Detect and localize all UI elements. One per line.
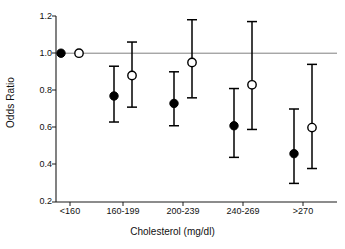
x-tick-marks — [70, 202, 303, 206]
data-point-filled-2 — [169, 72, 179, 126]
odds-ratio-forest-chart: Odds Ratio Cholesterol (mg/dl) 1.2 1.0 0… — [0, 0, 345, 249]
data-point-filled-0 — [57, 49, 65, 57]
y-tick-marks — [52, 16, 56, 202]
marker-open-circle — [188, 58, 196, 66]
marker-open-circle — [248, 81, 256, 89]
marker-filled-circle — [230, 122, 238, 130]
data-point-open-2 — [187, 20, 197, 98]
data-point-open-1 — [127, 42, 137, 107]
marker-filled-circle — [110, 92, 118, 100]
marker-open-circle — [75, 49, 83, 57]
data-point-open-4 — [307, 64, 317, 168]
data-point-open-3 — [247, 22, 257, 130]
marker-filled-circle — [290, 149, 298, 157]
series-filled — [57, 49, 299, 183]
marker-filled-circle — [57, 49, 65, 57]
data-point-filled-3 — [229, 89, 239, 158]
data-point-open-0 — [75, 49, 83, 57]
data-point-filled-4 — [289, 109, 299, 183]
data-series-layer — [57, 20, 317, 184]
data-point-filled-1 — [109, 66, 119, 122]
marker-open-circle — [308, 123, 316, 131]
plot-area — [0, 0, 345, 249]
marker-filled-circle — [170, 99, 178, 107]
marker-open-circle — [128, 71, 136, 79]
